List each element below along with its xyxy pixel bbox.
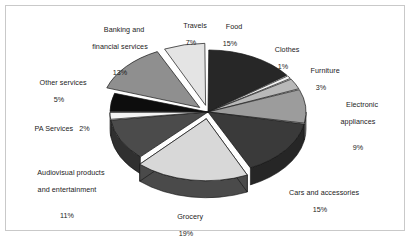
chart-page: Food 15% Clothes 1% Furniture 3% Electro… bbox=[0, 0, 412, 238]
slice-label-cars-and-accessories: Cars and accessories 15% bbox=[268, 180, 372, 232]
slice-label-audiovisual-line2: and entertainment bbox=[18, 186, 116, 195]
slice-label-pa-services-name: PA Services 2% bbox=[34, 124, 89, 133]
slice-label-cars-pct: 15% bbox=[268, 206, 372, 215]
slice-label-grocery: Grocery 19% bbox=[158, 204, 214, 238]
slice-label-travels-name: Travels bbox=[183, 21, 207, 30]
slice-label-electronic-line1: Electronic bbox=[346, 100, 378, 109]
slice-label-banking-line1: Banking and bbox=[104, 25, 145, 34]
slice-label-banking-line2: financial services bbox=[72, 43, 168, 52]
slice-label-travels: Travels 7% bbox=[168, 13, 214, 65]
slice-label-electronic-line2: appliances bbox=[325, 118, 391, 127]
slice-label-food-name: Food bbox=[226, 22, 243, 31]
slice-label-grocery-pct: 19% bbox=[158, 230, 214, 238]
slice-label-grocery-name: Grocery bbox=[177, 212, 203, 221]
slice-label-other-services-pct: 5% bbox=[20, 96, 98, 105]
slice-label-electronic-appliances: Electronic appliances 9% bbox=[325, 92, 391, 169]
slice-label-banking: Banking and financial services 13% bbox=[72, 17, 168, 94]
slice-label-audiovisual: Audiovisual products and entertainment 1… bbox=[18, 160, 116, 237]
slice-label-travels-pct: 7% bbox=[168, 39, 214, 48]
slice-label-banking-pct: 13% bbox=[72, 69, 168, 78]
slice-label-electronic-pct: 9% bbox=[325, 144, 391, 153]
slice-label-cars-name: Cars and accessories bbox=[289, 188, 359, 197]
slice-label-clothes-name: Clothes bbox=[275, 45, 300, 54]
slice-label-audiovisual-pct: 11% bbox=[18, 212, 116, 221]
slice-label-furniture-name: Furniture bbox=[310, 66, 339, 75]
slice-label-audiovisual-line1: Audiovisual products bbox=[37, 168, 104, 177]
